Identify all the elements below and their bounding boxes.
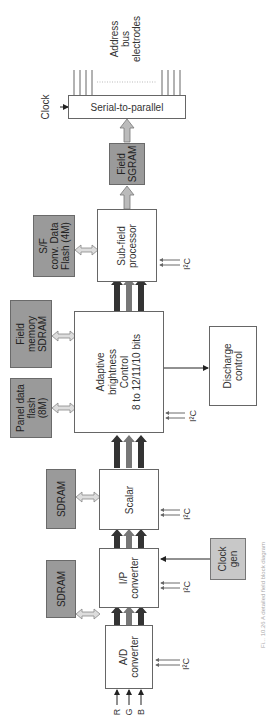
panel-data-flash-block: Panel data flash (8M) [10, 378, 52, 438]
adaptive-brightness-control-block: Adaptive brightness Control 8 to 12/11/1… [74, 311, 164, 433]
serial-to-parallel-block: Serial-to-parallel [68, 95, 186, 119]
input-label-g: G [123, 705, 135, 719]
sdram-block-1: SDRAM [46, 560, 76, 618]
i2c-label-ad: I²C [180, 655, 192, 673]
subfield-processor-block: Sub-field processor [97, 209, 157, 282]
input-label-r: R [111, 705, 123, 719]
ad-converter-block: A/D converter [105, 625, 153, 689]
address-bus-electrodes-label: Address bus electrodes [105, 14, 145, 64]
scalar-block: Scalar [99, 469, 159, 530]
field-sgram-block: Field SGRAM [109, 143, 145, 185]
data-path-ad-to-ip [111, 606, 147, 625]
i2c-label-abc: I²C [187, 407, 199, 425]
data-path-abc-to-subfield [111, 278, 147, 311]
i2c-label-scalar: I²C [181, 505, 193, 523]
field-memory-sdram-block: Field memory SDRAM [10, 300, 52, 368]
sdram-block-2: SDRAM [46, 469, 76, 529]
discharge-control-block: Discharge control [209, 326, 257, 406]
figure-caption: Fi... 10.26 A detailed field block diagr… [256, 470, 270, 720]
ip-converter-block: I/P converter [99, 548, 159, 608]
data-path-scalar-to-abc [111, 435, 147, 468]
i2c-label-subfield: I²C [181, 255, 193, 273]
data-path-ip-to-scalar [111, 529, 147, 548]
sf-conv-data-flash-block: S/F conv. Data Flash (4M) [33, 215, 75, 277]
clock-gen-block: Clock gen [210, 538, 246, 580]
clock-label: Clock [38, 92, 52, 122]
i2c-label-ip: I²C [181, 578, 193, 596]
input-label-b: B [135, 705, 147, 719]
